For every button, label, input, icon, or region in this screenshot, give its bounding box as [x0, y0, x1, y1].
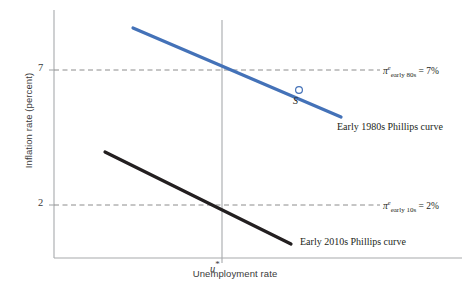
y-tick-label-7: 7 — [38, 62, 43, 73]
chart-canvas — [0, 0, 465, 303]
point-s-marker — [296, 87, 303, 94]
pi-subscript-1980s: early 80s — [391, 71, 416, 79]
ustar-asterisk: * — [215, 259, 220, 269]
curve-label-early-1980s: Early 1980s Phillips curve — [337, 121, 443, 132]
x-tick-label-ustar: u* — [210, 259, 220, 274]
curve-early-2010s — [105, 152, 291, 244]
curve-label-early-2010s: Early 2010s Phillips curve — [300, 236, 406, 247]
y-axis-title: Inflation rate (percent) — [23, 41, 34, 201]
annotation-expected-inflation-1980s: πeearly 80s = 7% — [383, 64, 439, 79]
pi-value-2010s: = 2% — [416, 201, 439, 211]
pi-superscript-1980s: e — [388, 64, 391, 71]
y-tick-label-2: 2 — [38, 197, 43, 208]
annotation-expected-inflation-2010s: πeearly 10s = 2% — [383, 199, 439, 214]
x-axis-title: Unemployment rate — [160, 268, 310, 279]
pi-superscript-2010s: e — [388, 199, 391, 206]
pi-subscript-2010s: early 10s — [391, 206, 416, 214]
curve-early-1980s — [133, 28, 341, 117]
pi-value-1980s: = 7% — [416, 66, 439, 76]
point-s-label: S — [293, 95, 298, 106]
phillips-curve-figure: Inflation rate (percent) Unemployment ra… — [0, 0, 465, 303]
